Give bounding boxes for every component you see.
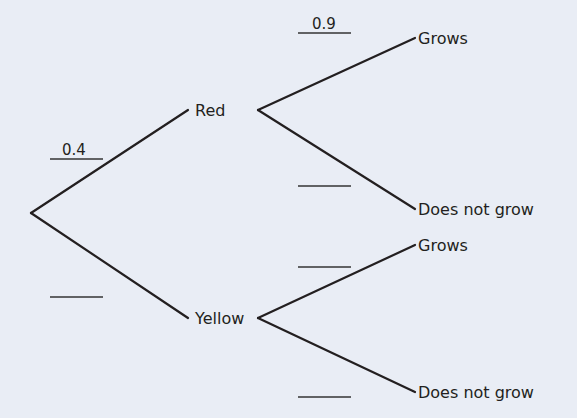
outcome-label-red-grows: Grows	[418, 29, 468, 48]
node-label-red: Red	[195, 101, 225, 120]
branch-yellow-does-not-grow	[258, 318, 415, 392]
branch-root-to-red	[31, 110, 188, 213]
tree-labels: RedGrowsDoes not growYellowGrowsDoes not…	[194, 29, 534, 402]
probability-red-value: 0.4	[62, 141, 86, 159]
tree-branches	[31, 38, 415, 392]
branch-red-does-not-grow	[258, 110, 415, 209]
outcome-label-yellow-grows: Grows	[418, 236, 468, 255]
outcome-label-yellow-does-not-grow: Does not grow	[418, 383, 534, 402]
outcome-label-red-does-not-grow: Does not grow	[418, 200, 534, 219]
probability-tree-diagram: 0.40.9 RedGrowsDoes not growYellowGrowsD…	[0, 0, 577, 418]
branch-root-to-yellow	[31, 213, 188, 318]
node-label-yellow: Yellow	[194, 309, 244, 328]
branch-yellow-grows	[258, 245, 415, 318]
branch-red-grows	[258, 38, 415, 110]
probability-red-grows-value: 0.9	[312, 15, 336, 33]
